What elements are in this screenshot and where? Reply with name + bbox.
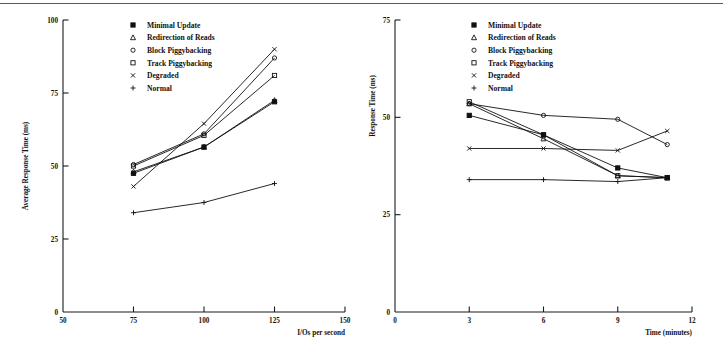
right-chart-figure: 0255075036912Time (minutes)Response Time… bbox=[362, 0, 723, 353]
y-axis-title: Response Time (ms) bbox=[369, 75, 377, 137]
x-ticks-group: 5075100125150 bbox=[59, 307, 350, 326]
x-tick-label: 12 bbox=[688, 317, 696, 325]
y-tick-label: 0 bbox=[386, 309, 390, 317]
data-point-marker bbox=[467, 113, 471, 117]
y-tick-label: 25 bbox=[51, 236, 59, 244]
series-line-minimal-update bbox=[469, 115, 667, 177]
x-ticks-group: 036912 bbox=[393, 307, 696, 326]
series-line-track-piggybacking bbox=[469, 102, 667, 178]
y-tick-label: 50 bbox=[383, 114, 391, 122]
legend-label: Degraded bbox=[147, 71, 179, 80]
x-tick-label: 100 bbox=[199, 317, 210, 325]
legend-label: Degraded bbox=[488, 71, 520, 80]
series-line-degraded bbox=[469, 131, 667, 150]
legend-label: Block Piggybacking bbox=[488, 46, 553, 55]
legend-marker-cross-x bbox=[131, 73, 135, 77]
x-tick-label: 3 bbox=[467, 317, 471, 325]
y-ticks-group: 0255075 bbox=[383, 17, 401, 317]
x-axis-title: I/Os per second bbox=[297, 329, 345, 337]
x-tick-label: 150 bbox=[340, 317, 351, 325]
y-tick-label: 0 bbox=[54, 309, 58, 317]
data-point-marker bbox=[616, 166, 620, 170]
x-tick-label: 50 bbox=[59, 317, 67, 325]
right-chart-svg: 0255075036912Time (minutes)Response Time… bbox=[362, 0, 723, 353]
left-chart-figure: 02550751005075100125150I/Os per secondAv… bbox=[0, 0, 362, 353]
legend-marker-square bbox=[131, 61, 135, 65]
data-point-marker bbox=[541, 177, 546, 182]
y-axis-title: Average Response Time (ms) bbox=[22, 121, 30, 210]
data-point-marker bbox=[272, 47, 276, 51]
legend-marker-triangle bbox=[131, 35, 136, 40]
legend-label: Track Piggybacking bbox=[488, 59, 553, 68]
data-point-marker bbox=[202, 122, 206, 126]
data-point-marker bbox=[467, 177, 472, 182]
y-tick-label: 25 bbox=[383, 211, 391, 219]
x-tick-label: 9 bbox=[616, 317, 620, 325]
y-tick-label: 50 bbox=[51, 163, 59, 171]
legend-marker-circle bbox=[472, 48, 476, 52]
data-point-marker bbox=[272, 181, 277, 186]
data-point-marker bbox=[665, 129, 669, 133]
legend-label: Minimal Update bbox=[147, 21, 201, 30]
legend-label: Track Piggybacking bbox=[147, 59, 212, 68]
series-line-block-piggybacking bbox=[469, 104, 667, 145]
data-point-marker bbox=[202, 200, 207, 205]
left-chart-svg: 02550751005075100125150I/Os per secondAv… bbox=[0, 0, 362, 353]
legend-marker-square-filled bbox=[131, 23, 135, 27]
legend-marker-square bbox=[472, 61, 476, 65]
x-tick-label: 75 bbox=[130, 317, 138, 325]
legend-label: Redirection of Reads bbox=[488, 33, 556, 42]
y-tick-label: 75 bbox=[383, 17, 391, 25]
legend-label: Redirection of Reads bbox=[147, 33, 215, 42]
legend-marker-plus bbox=[472, 86, 477, 91]
x-axis-title: Time (minutes) bbox=[645, 329, 692, 337]
legend-label: Normal bbox=[147, 84, 172, 93]
legend-label: Minimal Update bbox=[488, 21, 542, 30]
x-tick-label: 125 bbox=[269, 317, 280, 325]
legend-marker-square-filled bbox=[472, 23, 476, 27]
x-tick-label: 0 bbox=[393, 317, 397, 325]
data-point-marker bbox=[615, 179, 620, 184]
legend-group: Minimal UpdateRedirection of ReadsBlock … bbox=[131, 21, 215, 93]
legend-label: Normal bbox=[488, 84, 513, 93]
y-tick-label: 100 bbox=[47, 17, 58, 25]
figure-page: 02550751005075100125150I/Os per secondAv… bbox=[0, 0, 723, 353]
legend-label: Block Piggybacking bbox=[147, 46, 212, 55]
y-tick-label: 75 bbox=[51, 90, 59, 98]
x-tick-label: 6 bbox=[542, 317, 546, 325]
legend-marker-plus bbox=[131, 86, 136, 91]
legend-marker-circle bbox=[131, 48, 135, 52]
legend-group: Minimal UpdateRedirection of ReadsBlock … bbox=[472, 21, 556, 93]
series-line-normal bbox=[469, 178, 667, 182]
series-group bbox=[467, 100, 670, 184]
data-point-marker bbox=[131, 210, 136, 215]
data-point-marker bbox=[131, 184, 135, 188]
legend-marker-cross-x bbox=[472, 73, 476, 77]
y-ticks-group: 0255075100 bbox=[47, 17, 68, 317]
legend-marker-triangle bbox=[472, 35, 477, 40]
series-line-normal bbox=[134, 184, 275, 213]
